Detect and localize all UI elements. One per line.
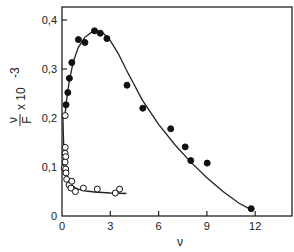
y-title-denominator: F: [20, 116, 34, 123]
open-data-point: [62, 113, 68, 119]
filled-data-point: [82, 40, 88, 46]
filled-data-point: [140, 105, 146, 111]
filled-data-point: [168, 126, 174, 132]
fit-curves: [63, 31, 252, 210]
filled-data-point: [204, 160, 210, 166]
filled-data-point: [69, 60, 75, 66]
filled-data-point: [124, 82, 130, 88]
open-data-point: [80, 185, 86, 191]
x-tick-label: 3: [107, 220, 113, 232]
y-tick-label: 0: [51, 210, 57, 222]
y-title-multiplier: x 10: [14, 87, 28, 110]
x-axis-title: ν: [177, 235, 183, 249]
filled-data-point: [188, 158, 194, 164]
y-title-numerator: ν: [6, 117, 20, 123]
y-tick-label: 0,2: [42, 112, 57, 124]
filled-data-point: [104, 36, 110, 42]
filled-data-point: [97, 30, 103, 36]
x-tick-label: 6: [156, 220, 162, 232]
y-tick-label: 0,1: [42, 161, 57, 173]
data-points: [61, 28, 254, 212]
open-data-point: [72, 189, 78, 195]
filled-data-point: [66, 75, 72, 81]
y-axis-title: ν F x 10 -3: [6, 67, 34, 126]
x-axis-ticks: 036912: [59, 211, 261, 232]
open-data-point: [117, 186, 123, 192]
filled-data-point: [248, 206, 254, 212]
y-tick-label: 0,4: [42, 14, 57, 26]
filled-data-point: [75, 37, 81, 43]
fit-curve: [65, 31, 252, 210]
filled-data-point: [92, 28, 98, 34]
y-title-exponent: -3: [8, 67, 22, 78]
open-data-point: [62, 159, 68, 165]
open-data-point: [63, 170, 69, 176]
open-data-point: [62, 144, 68, 150]
plot-frame: [62, 7, 292, 216]
open-data-point: [94, 186, 100, 192]
x-tick-label: 12: [249, 220, 261, 232]
x-tick-label: 0: [59, 220, 65, 232]
x-tick-label: 9: [204, 220, 210, 232]
filled-data-point: [63, 102, 69, 108]
open-data-point: [69, 178, 75, 184]
scatter-chart: 036912 00,10,20,30,4 ν ν F x 10 -3: [0, 0, 294, 252]
filled-data-point: [65, 90, 71, 96]
filled-data-point: [182, 144, 188, 150]
y-tick-label: 0,3: [42, 63, 57, 75]
